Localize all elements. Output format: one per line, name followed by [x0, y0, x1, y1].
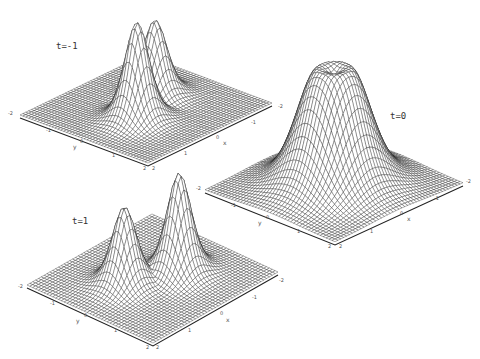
tick-x-label: 0	[220, 310, 223, 316]
tick-y-label: 0	[80, 138, 83, 144]
tick-x-label: -2	[279, 277, 284, 283]
tick-x-label: 0	[400, 210, 403, 216]
tick-y-label: 1	[114, 327, 117, 333]
panel-label-t-0: t=0	[390, 111, 406, 121]
tick-y-label: 0	[84, 312, 87, 318]
panel-label-t-1: t=1	[72, 216, 88, 226]
tick-x-label: 2	[339, 243, 342, 249]
tick-y-label: 2	[143, 165, 146, 171]
tick-x-label: 0	[216, 134, 219, 140]
tick-y-label: -1	[46, 127, 51, 133]
tick-y-label: -2	[8, 110, 13, 116]
tick-y-label: 1	[297, 228, 300, 234]
tick-x-label: 2	[156, 344, 159, 350]
tick-y-label: 2	[328, 243, 331, 249]
tick-y-label: -2	[196, 185, 201, 191]
tick-y-label: 2	[146, 344, 149, 350]
axis-label-y: y	[76, 317, 80, 324]
tick-x-label: -1	[252, 294, 257, 300]
panel-label-t-minus-1: t=-1	[56, 41, 78, 51]
axis-label-x: x	[407, 215, 411, 222]
tick-x-label: -2	[278, 103, 283, 109]
tick-y-label: -1	[50, 300, 55, 306]
tick-y-label: -1	[231, 202, 236, 208]
surface-plot-t-0	[205, 61, 463, 245]
tick-y-label: 0	[266, 214, 269, 220]
tick-x-label: -2	[466, 178, 471, 184]
tick-x-label: -1	[251, 119, 256, 125]
tick-x-label: 1	[188, 327, 191, 333]
tick-y-label: 1	[112, 152, 115, 158]
axis-label-y: y	[73, 143, 77, 150]
axis-label-x: x	[226, 316, 230, 323]
tick-y-label: -2	[18, 283, 23, 289]
tick-x-label: 2	[152, 165, 155, 171]
axis-label-y: y	[258, 219, 262, 226]
axis-label-x: x	[223, 139, 227, 146]
tick-x-label: 1	[184, 150, 187, 156]
surface-plots-figure	[0, 0, 480, 359]
tick-x-label: -1	[434, 195, 439, 201]
tick-x-label: 1	[370, 228, 373, 234]
